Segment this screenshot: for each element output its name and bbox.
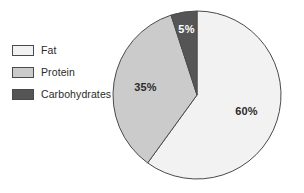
pie-slices-group (113, 11, 281, 179)
pie-chart-figure: Fat Protein Carbohydrates 60%35%5% (0, 0, 304, 193)
legend-label-protein: Protein (41, 67, 75, 78)
chart-legend: Fat Protein Carbohydrates (12, 44, 111, 101)
legend-item-carbohydrates: Carbohydrates (12, 88, 111, 101)
legend-swatch-protein (12, 67, 34, 78)
legend-label-fat: Fat (41, 45, 56, 56)
pie-label-fat: 60% (235, 105, 258, 117)
legend-item-fat: Fat (12, 44, 111, 57)
pie-label-carbohydrates: 5% (178, 23, 194, 35)
legend-label-carbohydrates: Carbohydrates (41, 89, 111, 100)
legend-item-protein: Protein (12, 66, 111, 79)
pie-svg: 60%35%5% (112, 10, 282, 180)
pie-plot-area: 60%35%5% (112, 10, 282, 180)
legend-swatch-carbohydrates (12, 89, 34, 100)
pie-label-protein: 35% (134, 81, 157, 93)
legend-swatch-fat (12, 45, 34, 56)
